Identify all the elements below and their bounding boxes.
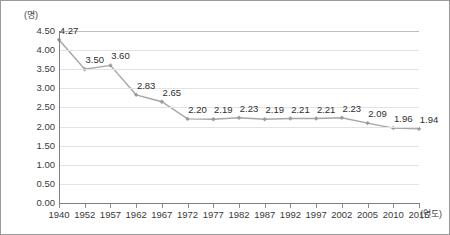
x-tick-mark (188, 204, 189, 208)
y-tick-label: 0.00 (25, 198, 55, 208)
x-tick-label: 2010 (383, 209, 404, 220)
x-tick-mark (368, 204, 369, 208)
plot-area: 4.273.503.602.832.652.202.192.232.192.21… (59, 31, 419, 203)
x-tick-label: 1987 (254, 209, 275, 220)
gridline (59, 165, 419, 166)
data-point-label: 2.19 (214, 104, 233, 115)
x-tick-label: 1940 (48, 209, 69, 220)
data-point-marker (211, 117, 215, 121)
y-tick-label: 3.50 (25, 64, 55, 74)
y-axis-line (59, 31, 60, 204)
gridline (59, 184, 419, 185)
y-axis-unit-label: (명) (24, 10, 38, 21)
data-point-marker (340, 116, 344, 120)
data-point-marker (365, 121, 369, 125)
data-point-label: 1.94 (420, 114, 439, 125)
data-point-label: 2.21 (291, 104, 310, 115)
x-tick-mark (59, 204, 60, 208)
x-tick-mark (342, 204, 343, 208)
data-point-marker (263, 117, 267, 121)
x-tick-mark (136, 204, 137, 208)
x-tick-mark (239, 204, 240, 208)
y-tick-label: 4.00 (25, 45, 55, 55)
data-point-label: 4.27 (60, 25, 79, 36)
x-tick-mark (110, 204, 111, 208)
gridline (59, 127, 419, 128)
data-point-label: 2.19 (265, 104, 284, 115)
x-tick-label: 2005 (357, 209, 378, 220)
gridline (59, 88, 419, 89)
x-tick-mark (290, 204, 291, 208)
data-point-label: 2.09 (368, 108, 387, 119)
x-tick-mark (85, 204, 86, 208)
y-tick-label: 1.00 (25, 160, 55, 170)
x-axis-tick-labels: 1940195219571962196719721977198219871992… (59, 209, 419, 225)
x-tick-mark (162, 204, 163, 208)
x-tick-label: 1962 (126, 209, 147, 220)
data-point-label: 2.65 (163, 87, 182, 98)
gridline (59, 146, 419, 147)
y-tick-label: 2.50 (25, 102, 55, 112)
x-tick-label: 1992 (280, 209, 301, 220)
data-point-label: 3.60 (111, 50, 130, 61)
x-tick-label: 1967 (151, 209, 172, 220)
gridline (59, 31, 419, 32)
x-tick-label: 2002 (331, 209, 352, 220)
chart-figure: (명) 4.504.003.503.002.502.001.501.000.50… (0, 0, 450, 235)
data-point-label: 2.20 (188, 104, 207, 115)
data-point-label: 1.96 (394, 113, 413, 124)
x-tick-mark (213, 204, 214, 208)
y-tick-label: 3.00 (25, 83, 55, 93)
data-point-label: 2.23 (343, 103, 362, 114)
x-tick-mark (265, 204, 266, 208)
data-point-marker (314, 116, 318, 120)
data-point-marker (288, 116, 292, 120)
x-tick-label: 1997 (306, 209, 327, 220)
x-tick-label: 1972 (177, 209, 198, 220)
data-point-label: 2.21 (317, 104, 336, 115)
x-tick-label: 1952 (74, 209, 95, 220)
data-point-marker (237, 116, 241, 120)
x-tick-mark (419, 204, 420, 208)
x-tick-label: 1957 (100, 209, 121, 220)
data-point-label: 3.50 (85, 54, 104, 65)
data-point-label: 2.83 (137, 80, 156, 91)
x-tick-label: 1982 (228, 209, 249, 220)
y-tick-label: 2.00 (25, 122, 55, 132)
y-axis-tick-labels: 4.504.003.503.002.502.001.501.000.500.00 (21, 31, 55, 203)
y-tick-label: 0.50 (25, 179, 55, 189)
x-tick-label: 1977 (203, 209, 224, 220)
y-tick-label: 1.50 (25, 141, 55, 151)
gridline (59, 69, 419, 70)
x-tick-mark (316, 204, 317, 208)
x-axis-unit-label: (연도) (420, 209, 442, 220)
data-point-label: 2.23 (240, 103, 259, 114)
y-tick-label: 4.50 (25, 26, 55, 36)
x-tick-mark (393, 204, 394, 208)
